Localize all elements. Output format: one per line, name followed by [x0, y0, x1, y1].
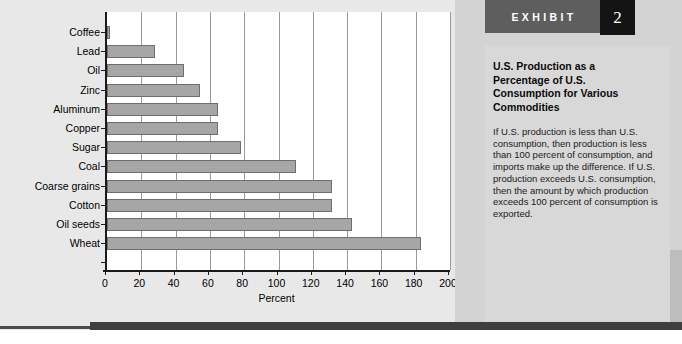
y-tick: [101, 128, 106, 129]
exhibit-body-text: If U.S. production is less than U.S. con…: [493, 126, 661, 220]
category-label-wheat: Wheat: [0, 237, 105, 250]
bar-rows: [107, 12, 450, 270]
gridline-200: [450, 12, 451, 270]
category-label-lead: Lead: [0, 45, 105, 58]
y-tick: [101, 70, 106, 71]
category-label-sugar: Sugar: [0, 141, 105, 154]
category-label-oil-seeds: Oil seeds: [0, 218, 105, 231]
bar-coal: [107, 160, 296, 173]
x-tick-200: [448, 270, 449, 275]
source-strip: [0, 330, 682, 344]
x-tick-160: [379, 270, 380, 275]
y-tick: [101, 147, 106, 148]
bar-sugar: [107, 141, 241, 154]
y-tick: [101, 32, 106, 33]
bar-oil: [107, 64, 184, 77]
y-tick: [101, 109, 106, 110]
category-label-oil: Oil: [0, 64, 105, 77]
x-tick-120: [311, 270, 312, 275]
y-tick: [101, 166, 106, 167]
x-tick-20: [139, 270, 140, 275]
category-label-copper: Copper: [0, 122, 105, 135]
exhibit-title: U.S. Production as a Percentage of U.S. …: [493, 60, 653, 114]
y-tick: [101, 90, 106, 91]
x-tick-80: [242, 270, 243, 275]
exhibit-number: 2: [600, 0, 635, 35]
y-tick: [101, 243, 106, 244]
y-tick: [101, 51, 106, 52]
category-label-cotton: Cotton: [0, 199, 105, 212]
x-axis-title: Percent: [105, 292, 448, 304]
exhibit-panel: EXHIBIT 2 U.S. Production as a Percentag…: [455, 0, 682, 344]
x-tick-100: [277, 270, 278, 275]
bar-coarse-grains: [107, 180, 332, 193]
category-label-coal: Coal: [0, 160, 105, 173]
bottom-dark-strip: [90, 322, 682, 330]
x-tick-60: [208, 270, 209, 275]
plot-area: [105, 12, 450, 270]
exhibit-card: U.S. Production as a Percentage of U.S. …: [485, 46, 670, 322]
bar-cotton: [107, 199, 332, 212]
chart-panel: CoffeeLeadOilZincAluminumCopperSugarCoal…: [0, 0, 455, 330]
bar-zinc: [107, 84, 200, 97]
y-tick: [101, 224, 106, 225]
exhibit-number-box: 2: [600, 0, 635, 35]
category-label-coarse-grains: Coarse grains: [0, 180, 105, 193]
bar-aluminum: [107, 103, 218, 116]
bar-copper: [107, 122, 218, 135]
x-tick-40: [174, 270, 175, 275]
category-label-aluminum: Aluminum: [0, 103, 105, 116]
exhibit-banner: EXHIBIT: [485, 0, 600, 33]
bar-coffee: [107, 26, 110, 39]
y-tick: [101, 262, 106, 263]
y-tick: [101, 186, 106, 187]
exhibit-card-shadow: [670, 250, 682, 322]
bar-lead: [107, 45, 155, 58]
category-label-coffee: Coffee: [0, 26, 105, 39]
bar-wheat: [107, 237, 421, 250]
bar-oil-seeds: [107, 218, 352, 231]
y-tick: [101, 205, 106, 206]
x-tick-0: [105, 270, 106, 275]
category-label-zinc: Zinc: [0, 84, 105, 97]
exhibit-banner-label: EXHIBIT: [485, 0, 600, 33]
x-tick-140: [345, 270, 346, 275]
x-tick-180: [414, 270, 415, 275]
